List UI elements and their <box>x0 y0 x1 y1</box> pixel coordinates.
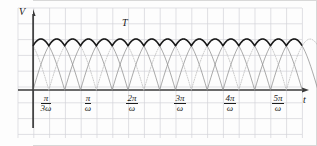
y-axis-label: V <box>19 6 25 17</box>
fraction: π3ω <box>41 94 52 113</box>
phase-arches <box>0 0 317 146</box>
fraction: 4πω <box>224 94 235 113</box>
fraction-denominator: ω <box>85 104 92 113</box>
fraction: 3πω <box>174 94 185 113</box>
tick-5pi-over-w: 5πω <box>262 94 294 113</box>
tick-2pi-over-w: 2πω <box>116 94 148 113</box>
fraction: πω <box>85 94 92 113</box>
fraction: 2πω <box>126 94 137 113</box>
fraction-denominator: 3ω <box>41 104 52 113</box>
waveform-plot <box>0 0 317 146</box>
figure-root: V t T π3ωπω2πω3πω4πω5πω <box>0 0 317 146</box>
fraction-denominator: ω <box>272 104 283 113</box>
tick-pi-over-w: πω <box>72 94 104 113</box>
fraction-denominator: ω <box>174 104 185 113</box>
tick-4pi-over-w: 4πω <box>214 94 246 113</box>
output-envelope-curve <box>33 39 302 46</box>
fraction-denominator: ω <box>126 104 137 113</box>
x-axis-label: t <box>303 94 306 105</box>
period-label-T: T <box>122 17 128 28</box>
tick-pi-over-3w: π3ω <box>30 94 62 113</box>
fraction-denominator: ω <box>224 104 235 113</box>
tick-3pi-over-w: 3πω <box>164 94 196 113</box>
fraction: 5πω <box>272 94 283 113</box>
